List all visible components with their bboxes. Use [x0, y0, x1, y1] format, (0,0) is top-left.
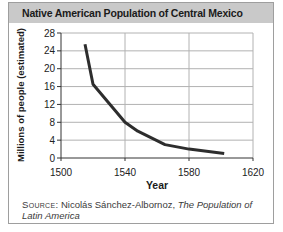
chart-title: Native American Population of Central Me…	[9, 3, 273, 23]
source-author: Nicolás Sánchez-Albornoz,	[58, 199, 177, 210]
line-chart: 04812162024281500154015801620YearMillion…	[9, 23, 273, 198]
y-tick-label: 20	[44, 63, 56, 74]
x-tick-label: 1580	[178, 167, 201, 178]
y-tick-label: 8	[49, 117, 55, 128]
population-line	[85, 44, 224, 153]
y-tick-label: 0	[49, 153, 55, 164]
y-tick-label: 16	[44, 81, 56, 92]
x-tick-label: 1540	[114, 167, 137, 178]
y-tick-label: 24	[44, 45, 56, 56]
x-tick-label: 1620	[242, 167, 265, 178]
y-tick-label: 12	[44, 99, 56, 110]
x-tick-label: 1500	[50, 167, 73, 178]
x-axis-title: Year	[146, 179, 168, 191]
source-label: Source:	[22, 199, 58, 210]
y-tick-label: 4	[49, 135, 55, 146]
y-tick-label: 28	[44, 28, 56, 39]
source-note: Source: Nicolás Sánchez-Albornoz, The Po…	[9, 198, 257, 221]
y-axis-title: Millions of people (estimated)	[15, 28, 26, 162]
chart-card: Native American Population of Central Me…	[8, 2, 274, 224]
